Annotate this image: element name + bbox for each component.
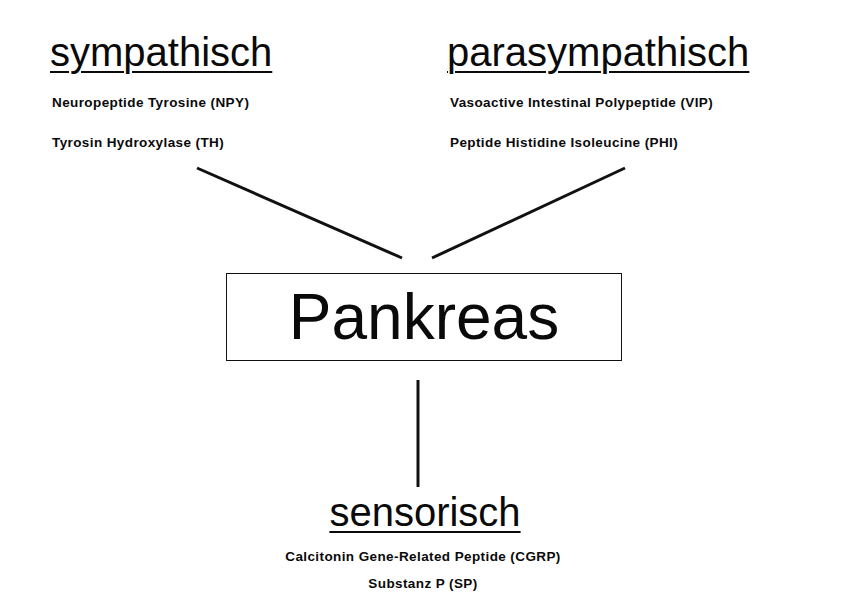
edge-sympathetic: [197, 168, 402, 258]
parasympathetic-title: parasympathisch: [447, 30, 749, 74]
sympathetic-item-th: Tyrosin Hydroxylase (TH): [52, 135, 224, 150]
sympathetic-item-npy: Neuropeptide Tyrosine (NPY): [52, 95, 249, 110]
sensory-title: sensorisch: [329, 490, 520, 534]
parasympathetic-item-phi: Peptide Histidine Isoleucine (PHI): [450, 135, 678, 150]
parasympathetic-item-vip: Vasoactive Intestinal Polypeptide (VIP): [450, 95, 713, 110]
sympathetic-title: sympathisch: [50, 30, 272, 74]
sensory-item-cgrp: Calcitonin Gene-Related Peptide (CGRP): [285, 549, 560, 564]
sensory-item-sp: Substanz P (SP): [368, 576, 477, 591]
edge-parasympathetic: [432, 168, 625, 258]
pancreas-label: Pankreas: [289, 282, 559, 352]
pancreas-box: Pankreas: [226, 273, 622, 361]
